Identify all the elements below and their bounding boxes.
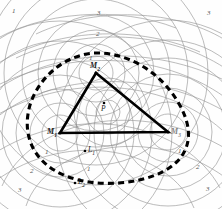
contour-label-corner-tl: 1 bbox=[12, 8, 16, 15]
vertex-label-m1-sub: 1 bbox=[54, 132, 57, 138]
point-label-p: P bbox=[101, 105, 106, 113]
contour-label-top-3: 3 bbox=[97, 10, 101, 17]
triangle-layer bbox=[0, 0, 222, 209]
point-label-l2-sub: 2 bbox=[82, 182, 85, 188]
contour-label-top-2: 2 bbox=[96, 31, 100, 38]
contour-label-left-1: 1 bbox=[45, 149, 49, 156]
point-label-l2: L2 bbox=[78, 178, 85, 188]
point-label-p-text: P bbox=[101, 104, 106, 113]
vertex-label-m2: M2 bbox=[90, 62, 100, 72]
point-dot-l1 bbox=[84, 150, 87, 153]
contour-label-right-2: 2 bbox=[196, 164, 200, 171]
contour-label-top-1: 1 bbox=[89, 55, 93, 62]
vertex-label-m2-sub: 2 bbox=[97, 66, 100, 72]
contour-label-left-3: 3 bbox=[18, 187, 22, 194]
contour-diagram-figure: M2 M1 M3 P L1 L2 1 2 3 1 2 3 1 2 3 1 3 1 bbox=[0, 0, 222, 209]
mass-triangle bbox=[60, 73, 168, 133]
contour-label-right-1: 1 bbox=[178, 148, 182, 155]
vertex-label-m3-sub: 3 bbox=[178, 132, 181, 138]
point-label-l1-sub: 1 bbox=[92, 150, 95, 156]
contour-label-bottom-1: 1 bbox=[87, 166, 91, 173]
contour-label-corner-tr: 3 bbox=[207, 10, 211, 17]
point-label-l1: L1 bbox=[88, 146, 95, 156]
point-dot-l2 bbox=[74, 182, 77, 185]
vertex-dot-m1 bbox=[58, 131, 61, 134]
vertex-dot-m3 bbox=[166, 130, 169, 133]
vertex-label-m3: M3 bbox=[171, 128, 181, 138]
contour-label-left-2: 2 bbox=[30, 168, 34, 175]
vertex-label-m1: M1 bbox=[47, 128, 57, 138]
contour-label-right-3: 3 bbox=[206, 186, 210, 193]
